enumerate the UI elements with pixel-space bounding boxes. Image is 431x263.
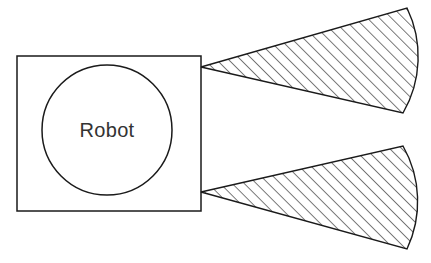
lower-cone-shape <box>201 146 418 249</box>
upper-sensor-cone <box>201 8 418 113</box>
robot-sensor-cone-diagram: Robot <box>0 0 431 263</box>
upper-cone-shape <box>201 8 418 113</box>
diagram-canvas: Robot <box>0 0 431 263</box>
lower-sensor-cone <box>201 146 418 249</box>
robot-label: Robot <box>80 119 135 141</box>
